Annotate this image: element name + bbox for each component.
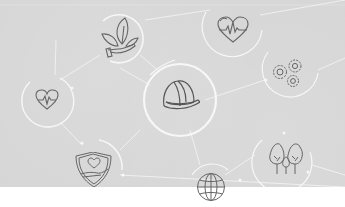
network-illustration bbox=[0, 0, 345, 187]
heart-pulse-icon bbox=[35, 89, 59, 111]
heart-pulse-icon bbox=[217, 16, 249, 44]
hard-hat-icon bbox=[160, 78, 200, 118]
plant-hand-icon bbox=[100, 16, 140, 60]
shield-heart-icon bbox=[75, 152, 113, 187]
gears-icon bbox=[270, 58, 306, 90]
trees-icon bbox=[268, 142, 304, 176]
globe-icon bbox=[196, 172, 226, 202]
